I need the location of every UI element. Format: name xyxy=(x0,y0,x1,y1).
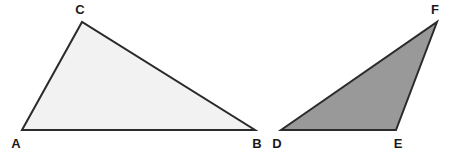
vertex-label-f: F xyxy=(431,3,439,16)
geometry-diagram: A B C D E F xyxy=(0,0,452,158)
vertex-label-b: B xyxy=(252,137,261,150)
vertex-label-e: E xyxy=(394,137,403,150)
triangles-svg xyxy=(0,0,452,158)
vertex-label-a: A xyxy=(11,137,20,150)
triangle-def-shape xyxy=(281,22,437,130)
vertex-label-c: C xyxy=(75,3,84,16)
triangle-abc-shape xyxy=(22,22,255,130)
vertex-label-d: D xyxy=(272,137,281,150)
